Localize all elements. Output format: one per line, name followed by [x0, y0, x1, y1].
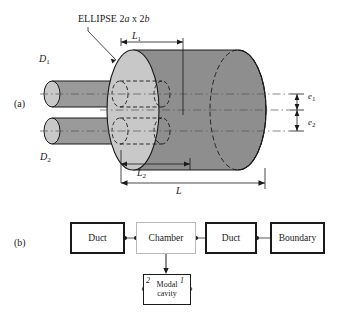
dim-arrow-L-left — [121, 180, 128, 186]
dimension-label-L: L — [176, 186, 182, 196]
dim-arrow-L1-left — [121, 39, 127, 44]
panel-a-label: (a) — [14, 99, 25, 109]
dim-arrow-e1-top — [295, 94, 300, 100]
dim-arrow-e1-bottom — [295, 104, 300, 110]
dim-arrow-L1-right — [177, 39, 183, 44]
dimension-label-e2: e2 — [308, 118, 316, 129]
panel-b-label: (b) — [14, 238, 26, 248]
dimension-label-L1: L1 — [132, 31, 141, 43]
block-boundary[interactable]: Boundary — [270, 222, 325, 254]
dim-arrow-e2-top — [295, 110, 300, 116]
ellipse-annotation-label: ELLIPSE 2a x 2b — [78, 14, 149, 24]
block-chamber[interactable]: Chamber — [136, 222, 196, 254]
block-duct-1[interactable]: Duct — [70, 222, 125, 254]
modal-cavity-port-label-2: 2 — [146, 276, 150, 285]
dimension-label-e1: e1 — [308, 92, 316, 103]
block-duct-2[interactable]: Duct — [205, 222, 257, 254]
dimension-label-D2: D2 — [40, 152, 51, 164]
dim-arrow-L-right — [259, 180, 266, 186]
ellipse-note-leader — [88, 27, 116, 60]
modal-cavity-port-label-1: 1 — [180, 276, 184, 285]
dim-arrow-e2-bottom — [295, 125, 300, 131]
dimension-label-D1: D1 — [39, 54, 50, 66]
modal-cavity-label-line2: cavity — [157, 290, 177, 298]
figure-container: (a) ELLIPSE 2a x 2b L1 L2 L D1 D2 e1 e2 … — [0, 0, 337, 322]
dimension-label-L2: L2 — [137, 168, 146, 180]
